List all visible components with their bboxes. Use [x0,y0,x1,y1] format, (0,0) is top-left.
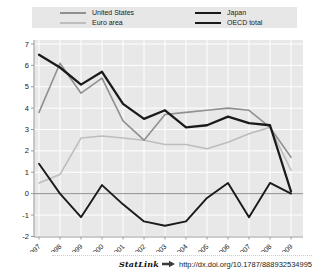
figure-page: United States Euro area Japan OECD total… [0,0,316,280]
x-axis-label: 2003 [152,243,168,252]
x-axis-label: 2008 [257,243,273,252]
y-axis-label: 5 [25,82,29,91]
x-axis-label: 1998 [47,243,63,252]
y-axis-label: 1 [25,168,29,177]
x-axis-label: 2002 [131,243,147,252]
x-axis-label: 2009 [278,243,294,252]
x-axis-label: 2004 [173,243,189,252]
y-axis-label: 0 [25,189,29,198]
statlink-separator [52,255,312,256]
statlink-footer: StatLink http://dx.doi.org/10.1787/88893… [119,259,312,269]
statlink-logo: StatLink [119,259,159,269]
y-axis-label: 6 [25,61,29,70]
y-axis-label: 4 [25,104,29,113]
x-axis-label: 2001 [110,243,126,252]
line-chart: 1997199819992000200120022003200420052006… [0,0,316,252]
x-axis-label: 2000 [89,243,105,252]
x-axis-label: 1999 [68,243,84,252]
x-axis-label: 2007 [236,243,252,252]
x-axis-label: 2005 [194,243,210,252]
y-axis-label: 3 [25,125,29,134]
y-axis-label: 7 [25,40,29,49]
y-axis-label: 2 [25,146,29,155]
x-axis-label: 2006 [215,243,231,252]
plot-area [34,40,303,237]
y-axis-label: -1 [22,211,29,220]
statlink-arrow-icon [162,260,176,268]
statlink-url[interactable]: http://dx.doi.org/10.1787/888932534995 [179,260,312,269]
y-axis-label: -2 [22,232,29,241]
x-axis-label: 1997 [26,243,42,252]
